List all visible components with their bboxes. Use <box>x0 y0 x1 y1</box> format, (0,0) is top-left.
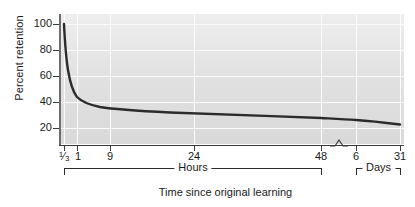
plot-area <box>60 14 404 144</box>
forgetting-curve-figure: Percent retention 100 80 60 40 20 <box>0 0 415 207</box>
y-tick-label-60: 60 <box>18 70 52 81</box>
y-axis-line <box>59 14 61 145</box>
days-bracket: Days <box>356 168 401 178</box>
x-tick-label-1: 1 <box>75 150 81 162</box>
x-tick-label-31d: 31 <box>394 150 406 162</box>
hours-bracket: Hours <box>64 168 322 178</box>
hours-bracket-label: Hours <box>174 161 211 173</box>
y-tick-label-40: 40 <box>18 96 52 107</box>
days-bracket-label: Days <box>362 161 395 173</box>
y-axis-tick-labels: 100 80 60 40 20 <box>18 0 52 207</box>
y-tick-label-20: 20 <box>18 122 52 133</box>
x-axis-title: Time since original learning <box>0 186 415 198</box>
fraction-numerator: 1 <box>59 150 63 159</box>
y-tick-label-80: 80 <box>18 44 52 55</box>
x-axis-title-text: Time since original learning <box>159 186 293 198</box>
x-tick-label-6d: 6 <box>353 150 359 162</box>
y-tick-label-100: 100 <box>18 18 52 29</box>
x-tick-label-48: 48 <box>315 150 327 162</box>
fraction-denominator: 3 <box>65 154 69 163</box>
retention-curve <box>60 14 404 144</box>
x-tick-label-9: 9 <box>107 150 113 162</box>
x-tick-label-third: 1⁄3 <box>59 150 70 163</box>
axis-break-icon <box>330 138 348 147</box>
